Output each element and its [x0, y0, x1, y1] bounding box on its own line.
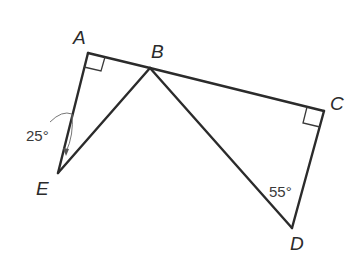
segment-cd: [292, 111, 324, 228]
vertex-label-a: A: [72, 27, 86, 48]
vertex-label-b: B: [151, 41, 164, 62]
vertex-label-d: D: [290, 233, 304, 254]
segment-bc: [150, 68, 324, 111]
vertex-label-c: C: [330, 93, 344, 114]
angle-label-25: 25°: [26, 127, 49, 144]
vertex-label-e: E: [36, 178, 49, 199]
angle-label-55: 55°: [269, 183, 292, 200]
segment-ab: [88, 53, 150, 68]
geometry-diagram: A B C D E 25° 55°: [0, 0, 359, 270]
segment-bd: [150, 68, 292, 228]
